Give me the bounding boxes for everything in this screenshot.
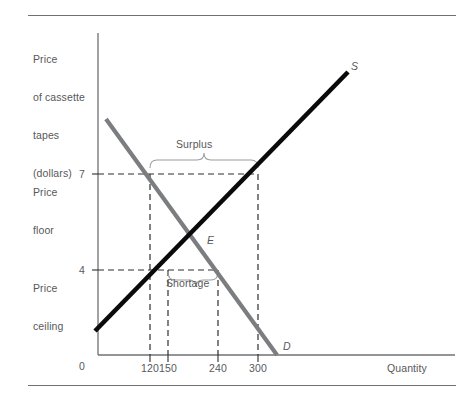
price-ceiling-label-line-2: ceiling (33, 320, 63, 333)
shortage-label: Shortage (166, 277, 209, 290)
x-axis-title: Quantity (387, 362, 427, 375)
price-floor-label-line-2: floor (33, 224, 57, 237)
supply-curve (95, 72, 348, 331)
x-tick-label-240: 240 (201, 362, 235, 375)
y-tick-label-7: 7 (79, 168, 85, 181)
y-axis-title-line-1: Price (33, 53, 85, 66)
y-tick-label-4: 4 (79, 264, 85, 277)
price-ceiling-label-line-1: Price (33, 282, 63, 295)
y-axis-title-line-3: tapes (33, 129, 85, 142)
demand-curve (106, 119, 277, 355)
demand-curve-label: D (283, 340, 291, 353)
y-axis-title-line-2: of cassette (33, 91, 85, 104)
surplus-label: Surplus (176, 138, 212, 151)
x-tick-label-300: 300 (241, 362, 275, 375)
supply-demand-figure: Price of cassette tapes (dollars) Price … (0, 0, 464, 401)
supply-curve-label: S (351, 60, 358, 73)
price-ceiling-label: Price ceiling (33, 257, 63, 358)
equilibrium-point-label: E (207, 234, 214, 247)
x-tick-label-150: 150 (151, 362, 185, 375)
origin-label: 0 (79, 360, 85, 373)
price-floor-label-line-1: Price (33, 186, 57, 199)
surplus-bracket-icon (150, 153, 258, 168)
price-floor-label: Price floor (33, 161, 57, 262)
